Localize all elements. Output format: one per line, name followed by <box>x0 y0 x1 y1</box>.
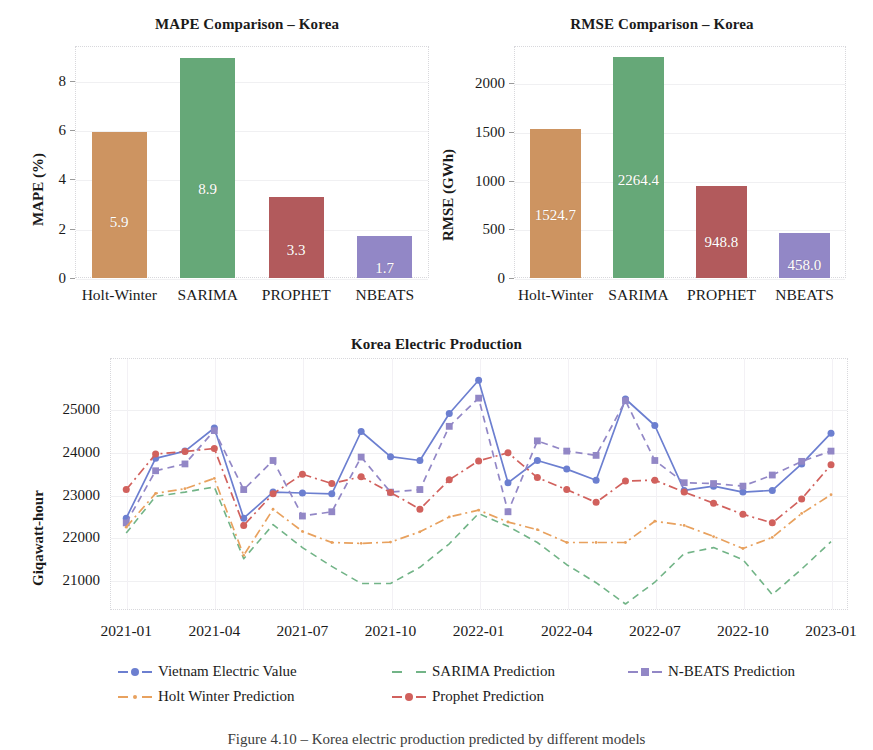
y-tick-label: 21000 <box>0 572 100 589</box>
legend-label: SARIMA Prediction <box>432 663 555 680</box>
series-marker <box>536 528 539 531</box>
y-tick-label: 24000 <box>0 443 100 460</box>
legend-item[interactable]: SARIMA Prediction <box>392 663 555 680</box>
series-marker <box>270 490 277 497</box>
series-marker <box>563 448 570 455</box>
series-marker <box>272 508 275 511</box>
bar-value-label: 2264.4 <box>613 172 664 189</box>
series-marker <box>622 397 629 404</box>
gridline <box>76 279 428 280</box>
series-marker <box>769 472 776 479</box>
timeseries-lines <box>110 358 848 610</box>
x-tick-label: 2022-04 <box>541 622 593 640</box>
series-marker <box>182 461 189 468</box>
series-marker <box>240 522 247 529</box>
x-tick-label: 2021-04 <box>188 622 240 640</box>
series-line <box>126 478 831 555</box>
y-tick-label: 6 <box>22 121 66 138</box>
series-marker <box>798 458 805 465</box>
series-marker <box>740 483 747 490</box>
series-marker <box>387 489 394 496</box>
series-marker <box>328 508 335 515</box>
mape-chart-panel: MAPE Comparison – Korea MAPE (%) 02468 5… <box>22 16 432 316</box>
bar-value-label: 3.3 <box>269 242 324 259</box>
x-category-label: SARIMA <box>608 286 668 304</box>
series-marker <box>504 449 511 456</box>
bar-value-label: 1524.7 <box>530 207 581 224</box>
series-marker <box>475 395 482 402</box>
series-marker <box>475 377 482 384</box>
series-marker <box>330 541 333 544</box>
series-marker <box>534 474 541 481</box>
series-marker <box>299 489 306 496</box>
series-marker <box>828 430 835 437</box>
y-tick-mark <box>509 278 514 279</box>
series-marker <box>771 536 774 539</box>
series-marker <box>507 521 510 524</box>
x-tick-label: 2021-01 <box>100 622 152 640</box>
x-tick-label: 2022-07 <box>629 622 681 640</box>
series-marker <box>358 473 365 480</box>
series-marker <box>416 486 423 493</box>
series-marker <box>651 477 658 484</box>
timeseries-svg <box>110 358 848 610</box>
series-marker <box>446 410 453 417</box>
legend-swatch-icon <box>392 691 426 703</box>
x-category-label: PROPHET <box>262 286 331 304</box>
y-tick-label: 2 <box>22 220 66 237</box>
series-line <box>126 487 831 604</box>
y-tick-label: 0 <box>432 270 505 287</box>
series-marker <box>563 466 570 473</box>
legend-label: Prophet Prediction <box>432 688 544 705</box>
x-tick-label: 2022-10 <box>717 622 769 640</box>
figure-caption: Figure 4.10 – Korea electric production … <box>0 731 873 748</box>
series-marker <box>828 461 835 468</box>
series-marker <box>184 487 187 490</box>
series-marker <box>563 486 570 493</box>
bar <box>269 197 324 278</box>
legend-swatch-icon <box>392 666 426 678</box>
y-tick-mark <box>70 278 75 279</box>
bar <box>92 132 147 278</box>
rmse-chart-panel: RMSE Comparison – Korea RMSE (GWh) 05001… <box>432 16 862 316</box>
y-tick-mark <box>70 229 75 230</box>
series-marker <box>593 499 600 506</box>
series-marker <box>301 530 304 533</box>
series-marker <box>683 524 686 527</box>
series-marker <box>622 478 629 485</box>
y-tick-mark <box>70 179 75 180</box>
x-category-label: Holt-Winter <box>518 286 593 304</box>
series-marker <box>830 493 833 496</box>
series-marker <box>446 476 453 483</box>
series-marker <box>534 457 541 464</box>
x-tick-label: 2023-01 <box>805 622 857 640</box>
y-tick-label: 0 <box>22 270 66 287</box>
legend-label: Vietnam Electric Value <box>158 663 297 680</box>
bar <box>696 186 747 278</box>
legend-item[interactable]: Vietnam Electric Value <box>118 663 297 680</box>
legend-item[interactable]: Holt Winter Prediction <box>118 688 295 705</box>
series-marker <box>446 423 453 430</box>
series-marker <box>299 513 306 520</box>
series-marker <box>360 542 363 545</box>
series-marker <box>416 457 423 464</box>
legend-item[interactable]: Prophet Prediction <box>392 688 544 705</box>
series-marker <box>389 541 392 544</box>
x-tick-label: 2021-07 <box>277 622 329 640</box>
bar-value-label: 948.8 <box>696 234 747 251</box>
legend-swatch-icon <box>628 666 662 678</box>
series-marker <box>270 457 277 464</box>
series-marker <box>624 541 627 544</box>
series-marker <box>828 448 835 455</box>
timeseries-legend: Vietnam Electric ValueSARIMA PredictionN… <box>0 663 873 713</box>
mape-chart-title: MAPE Comparison – Korea <box>62 16 432 33</box>
series-marker <box>710 480 717 487</box>
series-marker <box>710 500 717 507</box>
series-marker <box>328 490 335 497</box>
series-marker <box>651 457 658 464</box>
series-marker <box>769 487 776 494</box>
rmse-chart-title: RMSE Comparison – Korea <box>472 16 852 33</box>
series-marker <box>125 526 128 529</box>
series-marker <box>299 471 306 478</box>
legend-item[interactable]: N-BEATS Prediction <box>628 663 795 680</box>
